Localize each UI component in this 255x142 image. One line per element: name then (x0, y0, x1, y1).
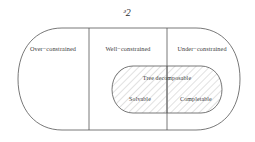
venn-diagram: ᵊ2 Over−constrained Well−constrained Und… (0, 0, 255, 142)
diagram-title: ᵊ2 (123, 8, 131, 18)
region-label-well-constrained: Well−constrained (105, 46, 150, 52)
inner-label-solvable: Solvable (129, 96, 151, 102)
inner-label-tree-decomposable: Tree decomposable (143, 75, 191, 81)
inner-label-completable: Completable (180, 96, 212, 102)
venn-diagram-canvas (0, 0, 255, 142)
region-label-over-constrained: Over−constrained (30, 46, 76, 52)
region-label-under-constrained: Under−constrained (177, 46, 226, 52)
